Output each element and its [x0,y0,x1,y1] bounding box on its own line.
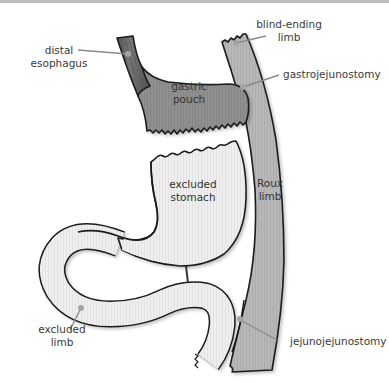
ligament [186,266,188,283]
dot-gastrojejunostomy [240,84,246,90]
dot-jejunojejunostomy [237,316,243,322]
label-line: blind-ending [254,18,324,31]
label-excluded-stomach: excluded stomach [163,178,223,204]
label-line: stomach [163,191,223,204]
dot-distal-esophagus [125,51,131,57]
label-jejunojejunostomy: jejunojejunostomy [290,335,387,348]
label-blind-ending-limb: blind-ending limb [254,18,324,44]
label-line: gastrojejunostomy [283,68,381,81]
dot-blind-ending-limb [233,40,239,46]
label-line: Roux [252,177,288,190]
label-line: excluded [163,178,223,191]
label-line: limb [254,31,324,44]
label-gastrojejunostomy: gastrojejunostomy [283,68,381,81]
label-excluded-limb: excluded limb [34,323,90,349]
label-line: gastric [164,80,214,93]
label-line: limb [252,190,288,203]
label-gastric-pouch: gastric pouch [164,80,214,106]
dot-excluded-limb [78,305,84,311]
label-roux-limb: Roux limb [252,177,288,203]
top-rule [0,0,389,3]
label-line: pouch [164,93,214,106]
limb-cut-end [195,354,198,368]
label-line: excluded [34,323,90,336]
label-distal-esophagus: distal esophagus [30,44,88,70]
label-line: jejunojejunostomy [290,335,387,348]
label-line: esophagus [30,57,88,70]
label-line: limb [34,336,90,349]
distal-esophagus [117,36,150,96]
label-line: distal [30,44,88,57]
